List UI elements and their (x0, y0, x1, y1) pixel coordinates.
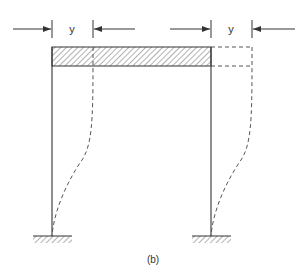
frame-drawing: y y (b) (0, 0, 307, 278)
beam (52, 47, 211, 66)
left-support (33, 236, 72, 243)
figure-caption: (b) (147, 254, 159, 265)
right-dimension: y (170, 20, 295, 38)
left-dimension: y (13, 20, 135, 38)
deflected-shape (52, 47, 252, 236)
portal-frame-diagram: y y (b) (0, 0, 307, 278)
right-dimension-label: y (228, 23, 234, 35)
right-support (192, 236, 231, 243)
left-dimension-label: y (69, 23, 75, 35)
